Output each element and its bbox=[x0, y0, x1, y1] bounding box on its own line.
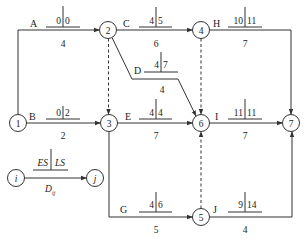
legend-es-label: ES bbox=[36, 158, 48, 168]
activity-D-name: D bbox=[134, 65, 141, 76]
es-ls-tick-D bbox=[144, 52, 178, 72]
activity-E-ls: 4 bbox=[158, 108, 163, 118]
network-diagram: 1 2 3 4 5 6 7 i j A B C D E G H I J 0 0 … bbox=[0, 0, 304, 239]
activity-G-es: 4 bbox=[149, 200, 154, 210]
activity-I-ls: 11 bbox=[247, 108, 256, 118]
activity-I-name: I bbox=[215, 111, 218, 122]
activity-D-es: 4 bbox=[154, 60, 159, 70]
activity-B-ls: 2 bbox=[65, 108, 70, 118]
activity-I-duration: 7 bbox=[243, 131, 248, 141]
activity-C-es: 4 bbox=[149, 16, 154, 26]
es-ls-tick-B bbox=[46, 106, 80, 119]
activity-E-es: 4 bbox=[149, 108, 154, 118]
arrow-D bbox=[112, 38, 196, 117]
es-ls-tick-J bbox=[228, 192, 262, 212]
activity-G-name: G bbox=[120, 204, 127, 215]
activity-G-ls: 6 bbox=[158, 200, 163, 210]
node-6-label: 6 bbox=[199, 119, 204, 129]
activity-D-ls: 7 bbox=[163, 60, 168, 70]
activity-B-duration: 2 bbox=[61, 131, 66, 141]
activity-J-es: 9 bbox=[238, 200, 243, 210]
activity-E-name: E bbox=[125, 111, 131, 122]
node-7-label: 7 bbox=[289, 119, 294, 129]
activity-H-ls: 11 bbox=[247, 16, 256, 26]
activity-I-es: 11 bbox=[234, 108, 243, 118]
legend-ls-label: LS bbox=[54, 158, 65, 168]
legend-duration-label: D bbox=[44, 184, 52, 194]
arrow-H bbox=[210, 30, 292, 115]
activity-C-ls: 5 bbox=[158, 16, 163, 26]
activity-G-duration: 5 bbox=[154, 225, 159, 235]
activity-B-name: B bbox=[29, 111, 36, 122]
activity-A-name: A bbox=[30, 18, 38, 29]
activity-C-name: C bbox=[123, 18, 130, 29]
activity-J-ls: 14 bbox=[247, 200, 257, 210]
node-1-label: 1 bbox=[16, 119, 21, 129]
arrow-A bbox=[18, 30, 100, 115]
node-2-label: 2 bbox=[106, 26, 111, 36]
node-4-label: 4 bbox=[199, 26, 204, 36]
activity-B-es: 0 bbox=[56, 108, 61, 118]
es-ls-tick-G bbox=[139, 192, 172, 212]
activity-E-duration: 7 bbox=[154, 131, 159, 141]
es-ls-tick-A bbox=[46, 6, 80, 27]
activity-D-duration: 4 bbox=[160, 85, 165, 95]
activity-J-duration: 4 bbox=[243, 225, 248, 235]
activity-A-duration: 4 bbox=[61, 39, 66, 49]
activity-J-name: J bbox=[213, 204, 217, 215]
es-ls-tick-E bbox=[139, 99, 172, 119]
legend-node-i-label: i bbox=[15, 174, 18, 184]
node-3-label: 3 bbox=[107, 119, 112, 129]
legend-duration-subscript: ij bbox=[52, 190, 56, 196]
activity-C-duration: 6 bbox=[154, 39, 159, 49]
activity-H-es: 10 bbox=[234, 16, 244, 26]
activity-H-name: H bbox=[213, 18, 220, 29]
es-ls-tick-C bbox=[139, 7, 172, 27]
activity-A-ls: 0 bbox=[65, 16, 70, 26]
node-5-label: 5 bbox=[199, 213, 204, 223]
activity-H-duration: 7 bbox=[243, 39, 248, 49]
activity-A-es: 0 bbox=[56, 16, 61, 26]
